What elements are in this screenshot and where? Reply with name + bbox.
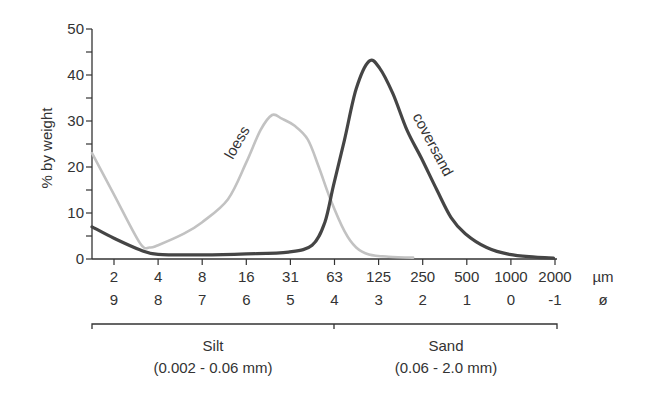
grain-size-chart: 01020304050 2948871663156341253250250011… — [0, 0, 652, 403]
sand-range: (0.06 - 2.0 mm) — [395, 359, 498, 376]
x-unit-phi: ø — [598, 291, 607, 308]
x-tick-label-phi: 9 — [110, 291, 118, 308]
y-axis: 01020304050 — [67, 20, 92, 267]
y-tick-label: 10 — [67, 204, 84, 221]
x-tick-label-um: 4 — [154, 268, 162, 285]
x-tick-label-phi: 1 — [463, 291, 471, 308]
x-tick-label-um: 125 — [366, 268, 391, 285]
x-tick-label-phi: 2 — [419, 291, 427, 308]
x-tick-label-phi: 4 — [330, 291, 338, 308]
y-tick-label: 30 — [67, 112, 84, 129]
x-unit-um: µm — [592, 268, 613, 285]
y-tick-label: 50 — [67, 20, 84, 37]
x-tick-label-um: 63 — [326, 268, 343, 285]
x-tick-label-phi: 5 — [286, 291, 294, 308]
coversand-curve — [92, 60, 554, 258]
silt-label: Silt — [203, 337, 225, 354]
y-tick-label: 0 — [76, 250, 84, 267]
x-tick-label-phi: 7 — [198, 291, 206, 308]
x-tick-label-um: 2000 — [538, 268, 571, 285]
coversand-label: coversand — [410, 110, 458, 179]
x-tick-label-phi: 6 — [242, 291, 250, 308]
x-tick-label-phi: 0 — [507, 291, 515, 308]
y-tick-label: 40 — [67, 66, 84, 83]
x-tick-label-um: 16 — [238, 268, 255, 285]
loess-curve — [92, 114, 413, 257]
x-tick-label-phi: 8 — [154, 291, 162, 308]
x-tick-label-phi: -1 — [548, 291, 561, 308]
y-axis-title: % by weight — [38, 107, 55, 189]
x-tick-label-um: 250 — [410, 268, 435, 285]
x-tick-label-um: 31 — [282, 268, 299, 285]
x-tick-label-um: 2 — [110, 268, 118, 285]
y-tick-label: 20 — [67, 158, 84, 175]
bracket-line — [92, 324, 557, 329]
x-tick-label-um: 1000 — [494, 268, 527, 285]
x-tick-label-um: 500 — [454, 268, 479, 285]
x-tick-label-phi: 3 — [374, 291, 382, 308]
silt-range: (0.002 - 0.06 mm) — [153, 359, 272, 376]
x-tick-label-um: 8 — [198, 268, 206, 285]
x-axis: 294887166315634125325025001100002000-1µm… — [92, 259, 614, 308]
sand-label: Sand — [428, 337, 463, 354]
size-class-bracket: Silt (0.002 - 0.06 mm) Sand (0.06 - 2.0 … — [92, 324, 557, 376]
curves — [92, 60, 554, 258]
